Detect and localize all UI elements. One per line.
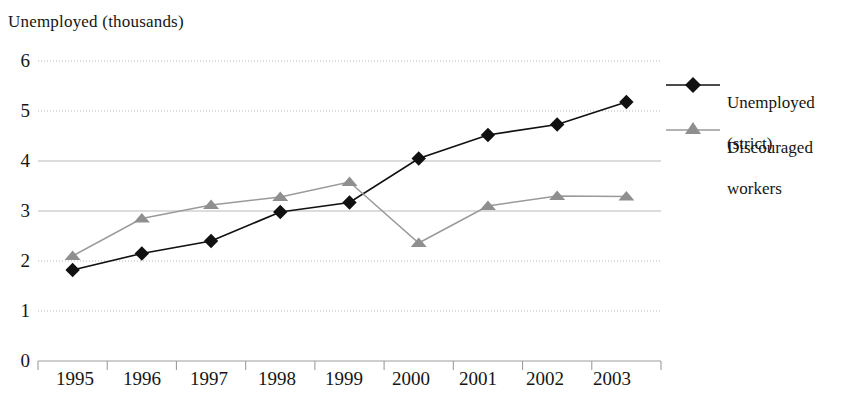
legend-markers: [664, 60, 724, 150]
data-point-marker: [549, 190, 565, 200]
data-point-marker: [481, 128, 495, 142]
legend-label-discouraged-workers: Discouraged workers: [727, 117, 813, 200]
data-point-marker: [204, 234, 218, 248]
data-point-marker: [412, 151, 426, 165]
plot-area: [0, 0, 680, 400]
data-point-marker: [273, 205, 287, 219]
data-point-marker: [619, 95, 633, 109]
data-point-marker: [65, 250, 81, 260]
series-line: [73, 182, 627, 256]
data-point-marker: [342, 176, 358, 186]
legend-marker-discouraged-workers: [666, 122, 720, 134]
data-point-marker: [342, 195, 356, 209]
legend-label-line2: workers: [727, 179, 782, 198]
data-point-marker: [550, 117, 564, 131]
unemployment-line-chart: Unemployed (thousands) 6 5 4 3 2 1 0 199…: [0, 0, 843, 414]
series-discouraged-workers: [65, 176, 635, 260]
axis-lines: [38, 361, 661, 370]
data-point-marker: [65, 263, 79, 277]
data-point-marker: [135, 246, 149, 260]
legend-label-line1: Unemployed: [727, 93, 815, 112]
legend-marker-unemployed-strict: [666, 77, 720, 93]
legend-label-line1: Discouraged: [727, 138, 813, 157]
series-layer: [65, 95, 635, 277]
